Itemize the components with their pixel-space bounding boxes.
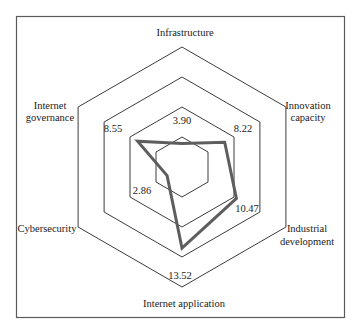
axis-label-5-line-1: governance xyxy=(26,112,75,123)
axis-label-3-line-0: Internet application xyxy=(143,298,226,309)
value-label-3: 13.52 xyxy=(168,270,192,281)
axis-label-1-line-1: capacity xyxy=(291,112,327,123)
series-layer xyxy=(138,141,237,248)
axis-labels: InfrastructureInnovationcapacityIndustri… xyxy=(18,27,335,309)
radar-chart-svg: 3.908.2210.4713.522.868.55 Infrastructur… xyxy=(0,0,359,333)
value-label-2: 10.47 xyxy=(235,203,259,214)
axis-label-2-line-0: Industrial xyxy=(287,223,327,234)
axis-label-0-line-0: Infrastructure xyxy=(156,27,213,38)
radar-chart: 3.908.2210.4713.522.868.55 Infrastructur… xyxy=(0,0,359,333)
grid-ring-15 xyxy=(104,77,260,257)
series-polygon xyxy=(138,141,237,248)
grid-ring-5 xyxy=(156,137,208,197)
axis-label-2-line-1: development xyxy=(280,236,334,247)
axis-label-5-line-0: Internet xyxy=(34,100,67,111)
axis-label-4-line-0: Cybersecurity xyxy=(18,223,78,234)
value-label-5: 8.55 xyxy=(104,123,122,134)
grid-ring-20 xyxy=(78,47,286,287)
axis-label-1-line-0: Innovation xyxy=(285,100,331,111)
value-label-4: 2.86 xyxy=(133,185,151,196)
grid-rings xyxy=(78,47,286,287)
value-label-0: 3.90 xyxy=(173,115,191,126)
value-label-1: 8.22 xyxy=(234,123,252,134)
